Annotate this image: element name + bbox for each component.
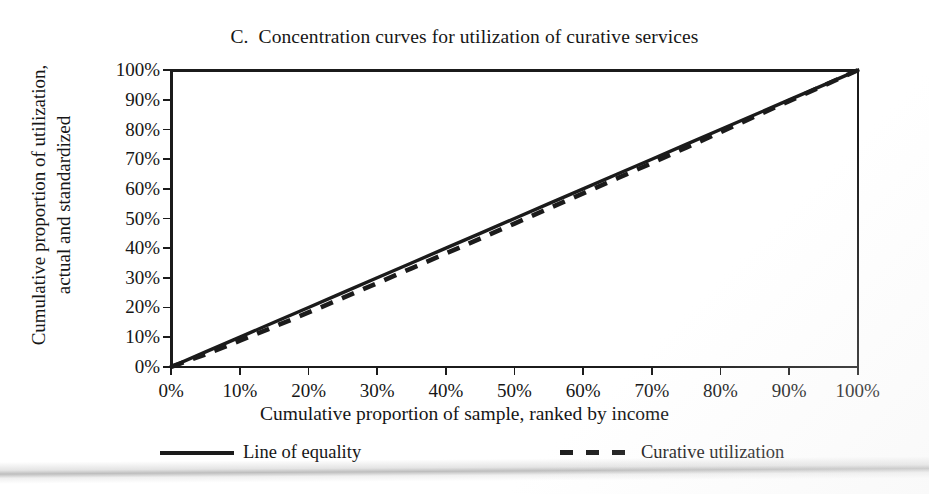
y-axis-title: Cumulative proportion of utilization, ac… — [18, 40, 84, 370]
solid-line-swatch-icon — [160, 445, 234, 459]
x-tick-label: 40% — [428, 380, 463, 402]
legend-label-curative-utilization: Curative utilization — [641, 442, 784, 463]
y-tick-label: 50% — [125, 208, 160, 230]
y-tick-label: 90% — [125, 89, 160, 111]
y-axis-title-line-2: actual and standardized — [51, 65, 76, 346]
y-tick-label: 30% — [125, 267, 160, 289]
legend-item-curative-utilization: Curative utilization — [558, 440, 784, 464]
chart-legend: Line of equality Curative utilization — [160, 440, 820, 464]
x-tick-label: 70% — [634, 380, 669, 402]
dashed-line-swatch-icon — [558, 445, 632, 459]
x-tick-label: 0% — [159, 380, 184, 402]
figure-panel-c: C. Concentration curves for utilization … — [0, 0, 929, 494]
y-tick-label: 100% — [116, 59, 160, 81]
x-axis-title: Cumulative proportion of sample, ranked … — [0, 403, 929, 425]
x-tick-label: 60% — [566, 380, 601, 402]
y-tick-label: 20% — [125, 296, 160, 318]
y-tick-label: 60% — [125, 178, 160, 200]
x-tick-label: 10% — [222, 380, 257, 402]
plot-area: 0%10%20%30%40%50%60%70%80%90%100% 0%10%2… — [170, 69, 859, 368]
y-axis-title-line-1: Cumulative proportion of utilization, — [26, 65, 51, 346]
series-layer — [170, 69, 859, 368]
x-tick-label: 20% — [291, 380, 326, 402]
y-tick-label: 10% — [125, 326, 160, 348]
x-tick-label: 100% — [836, 380, 880, 402]
x-tick-label: 50% — [497, 380, 532, 402]
x-tick-label: 90% — [772, 380, 807, 402]
chart-title: C. Concentration curves for utilization … — [0, 26, 929, 48]
y-tick-label: 80% — [125, 119, 160, 141]
y-tick-label: 40% — [125, 237, 160, 259]
y-tick-label: 0% — [135, 356, 160, 378]
legend-label-line-of-equality: Line of equality — [243, 442, 361, 463]
x-tick-label: 30% — [360, 380, 395, 402]
legend-item-line-of-equality: Line of equality — [160, 440, 361, 464]
line-of-equality-series — [171, 70, 858, 367]
x-tick-label: 80% — [703, 380, 738, 402]
y-tick-label: 70% — [125, 148, 160, 170]
